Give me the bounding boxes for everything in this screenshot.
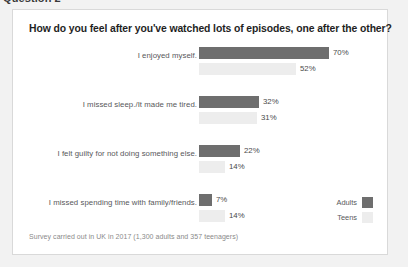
bar-row-adults: 22%	[199, 141, 260, 153]
bar-group: I enjoyed myself.70%52%	[13, 42, 389, 74]
bar-chart-plot: I enjoyed myself.70%52%I missed sleep./I…	[13, 42, 389, 222]
bar-adults	[199, 145, 240, 157]
legend-swatch-adults	[362, 197, 373, 208]
bar-group: I missed spending time with family/frien…	[13, 189, 389, 221]
legend-label-teens: Teens	[337, 213, 357, 222]
bar-value-adults: 22%	[244, 145, 260, 157]
bar-value-teens: 52%	[300, 63, 316, 75]
chart-title: How do you feel after you've watched lot…	[29, 23, 392, 34]
bar-value-teens: 14%	[229, 210, 245, 222]
category-label: I felt guilty for not doing something el…	[0, 149, 197, 158]
bar-row-teens: 52%	[199, 59, 316, 71]
bar-group: I felt guilty for not doing something el…	[13, 140, 389, 172]
bar-value-adults: 70%	[333, 47, 349, 59]
bar-adults	[199, 96, 259, 108]
bar-value-adults: 32%	[263, 96, 279, 108]
bar-value-adults: 7%	[216, 194, 227, 206]
bar-row-teens: 31%	[199, 108, 277, 120]
category-label: I missed sleep./It made me tired.	[0, 100, 197, 109]
bar-value-teens: 31%	[261, 112, 277, 124]
bar-row-adults: 32%	[199, 92, 279, 104]
bar-teens	[199, 112, 257, 124]
chart-footnote: Survey carried out in UK in 2017 (1,300 …	[29, 233, 238, 240]
category-label: I enjoyed myself.	[0, 51, 197, 60]
bar-adults	[199, 47, 329, 59]
bar-teens	[199, 210, 225, 222]
bar-value-teens: 14%	[229, 161, 245, 173]
category-label: I missed spending time with family/frien…	[0, 198, 197, 207]
bar-row-teens: 14%	[199, 206, 245, 218]
legend-item-teens: Teens	[336, 211, 373, 223]
question-heading-strip: Question 2	[0, 0, 408, 6]
bar-row-adults: 70%	[199, 43, 349, 55]
bar-row-adults: 7%	[199, 190, 227, 202]
chart-card: How do you feel after you've watched lot…	[12, 9, 388, 255]
legend-item-adults: Adults	[336, 196, 373, 208]
bar-group: I missed sleep./It made me tired.32%31%	[13, 91, 389, 123]
question-heading: Question 2	[3, 0, 61, 4]
chart-legend: Adults Teens	[336, 196, 373, 226]
legend-label-adults: Adults	[336, 198, 357, 207]
legend-swatch-teens	[362, 212, 373, 223]
bar-teens	[199, 63, 296, 75]
bar-teens	[199, 161, 225, 173]
bar-row-teens: 14%	[199, 157, 245, 169]
bar-adults	[199, 194, 212, 206]
